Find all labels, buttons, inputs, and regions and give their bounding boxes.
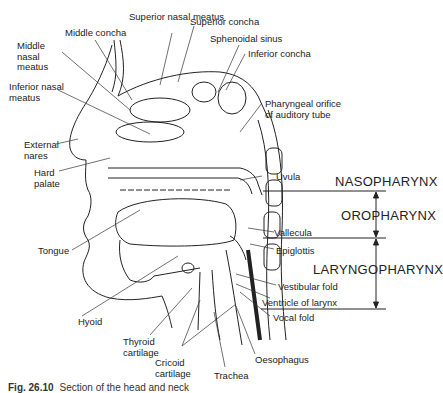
- region-nasopharynx: NASOPHARYNX: [335, 174, 438, 189]
- label-epiglottis: Epiglottis: [276, 246, 315, 257]
- caption-number: Fig. 26.10: [8, 382, 54, 393]
- region-laryngopharynx: LARYNGOPHARYNX: [313, 262, 443, 277]
- label-ventricle-of-larynx: Ventricle of larynx: [262, 298, 337, 309]
- label-cricoid-cartilage: Cricoid cartilage: [155, 358, 200, 379]
- label-uvula: Uvula: [276, 172, 300, 183]
- label-hyoid: Hyoid: [78, 317, 102, 328]
- label-superior-concha: Superior concha: [190, 17, 259, 28]
- label-external-nares: External nares: [24, 140, 62, 161]
- label-trachea: Trachea: [214, 371, 249, 382]
- hard-palate-shape: [108, 168, 262, 195]
- label-inferior-concha: Inferior concha: [248, 49, 311, 60]
- label-tongue: Tongue: [38, 246, 69, 257]
- label-pharyngeal-orifice: Pharyngeal orifice of auditory tube: [265, 99, 345, 120]
- label-inferior-nasal-meatus: Inferior nasal meatus: [9, 82, 64, 103]
- tongue-shape: [116, 199, 236, 246]
- label-middle-nasal-meatus: Middle nasal meatus: [17, 41, 67, 73]
- figure-caption: Fig. 26.10Section of the head and neck: [8, 382, 189, 393]
- label-middle-concha: Middle concha: [65, 28, 126, 39]
- label-sphenoidal-sinus: Sphenoidal sinus: [210, 34, 282, 45]
- caption-text: Section of the head and neck: [60, 382, 190, 393]
- label-thyroid-cartilage: Thyroid cartilage: [123, 337, 168, 358]
- label-vestibular-fold: Vestibular fold: [278, 282, 338, 293]
- label-vallecula: Vallecula: [274, 228, 312, 239]
- region-oropharynx: OROPHARYNX: [341, 208, 436, 223]
- label-vocal-fold: Vocal fold: [273, 313, 314, 324]
- label-oesophagus: Oesophagus: [255, 355, 309, 366]
- label-hard-palate: Hard palate: [34, 168, 64, 189]
